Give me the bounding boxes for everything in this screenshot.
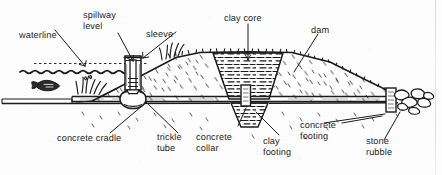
label-clay-footing: clay footing (263, 136, 291, 157)
label-concrete-collar: concrete collar (196, 132, 232, 153)
concrete-footing (386, 88, 396, 112)
label-clay-core: clay core (224, 13, 262, 23)
label-waterline: waterline (19, 30, 57, 40)
label-concrete-cradle: concrete cradle (57, 133, 121, 143)
concrete-collar (241, 85, 251, 106)
label-trickle-tube: trickle tube (157, 132, 182, 153)
label-dam: dam (311, 25, 329, 35)
diagram-canvas: waterline spillway level sleeve clay cor… (0, 0, 442, 175)
page-edge-artifact (435, 0, 436, 175)
label-sleeve: sleeve (146, 29, 173, 39)
label-stone-rubble: stone rubble (366, 136, 392, 157)
label-spillway-level: spillway level (83, 10, 116, 31)
sleeve-standpipe (124, 56, 143, 94)
label-concrete-footing: concrete footing (300, 120, 336, 141)
